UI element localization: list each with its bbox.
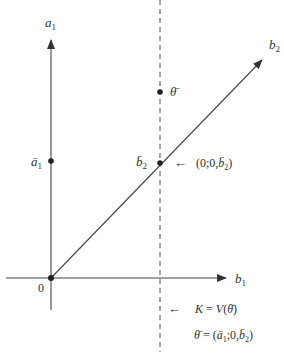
diagram-canvas: a1 b1 b2 0 ā1 b̄2 θ̄ ← (0;0,b̄2) ← K = V…: [0, 0, 284, 356]
b2-bar-point: [157, 160, 163, 166]
axis-b2-label: b2: [269, 37, 280, 54]
b2-point-coords: (0;0,b̄2): [196, 156, 232, 172]
K-definition: K = V(θ̄): [194, 302, 237, 316]
axis-b1-label: b1: [235, 271, 246, 288]
a1-bar-point: [48, 158, 54, 164]
a1-bar-label: ā1: [31, 154, 42, 171]
theta-definition: θ̄ = (ā1;0,b̄2): [194, 328, 253, 344]
axis-a1-label: a1: [45, 15, 56, 32]
origin-point: [48, 275, 54, 281]
b2-bar-label: b̄2: [136, 154, 147, 171]
K-arrow: ←: [168, 301, 181, 316]
b2-point-arrow: ←: [174, 155, 187, 170]
origin-label: 0: [38, 281, 44, 295]
theta-bar-point: [157, 89, 163, 95]
theta-bar-label: θ̄: [170, 84, 180, 99]
